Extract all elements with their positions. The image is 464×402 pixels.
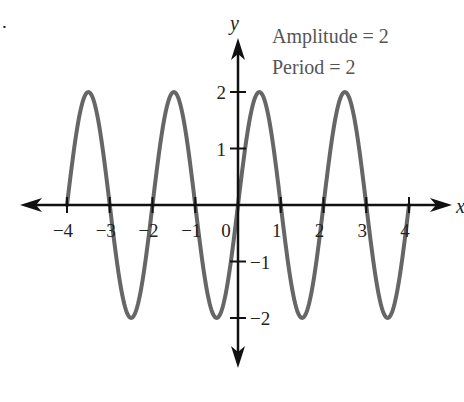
y-tick-label: −2 [250,308,270,329]
x-tick-label: −3 [96,220,116,241]
y-tick-label: 2 [217,82,227,103]
x-tick-label: 4 [400,220,410,241]
x-tick-label: 1 [272,220,282,241]
x-tick-label: −2 [138,220,158,241]
x-tick-label: 3 [358,220,368,241]
sine-graph: . −4−3−2−101234 21−1−2 y x Amplitude = 2… [0,0,464,402]
x-tick-label: 0 [221,220,231,241]
y-tick-label: 1 [217,139,227,160]
period-annotation: Period = 2 [272,56,356,78]
problem-marker: . [2,11,7,32]
x-tick-label: −1 [181,220,201,241]
y-tick-label: −1 [250,252,270,273]
x-tick-label: 2 [315,220,325,241]
x-axis-label: x [455,195,464,217]
x-tick-label: −4 [53,220,74,241]
amplitude-annotation: Amplitude = 2 [272,25,389,48]
y-axis: 21−1−2 [217,38,271,368]
y-axis-label: y [228,12,239,35]
